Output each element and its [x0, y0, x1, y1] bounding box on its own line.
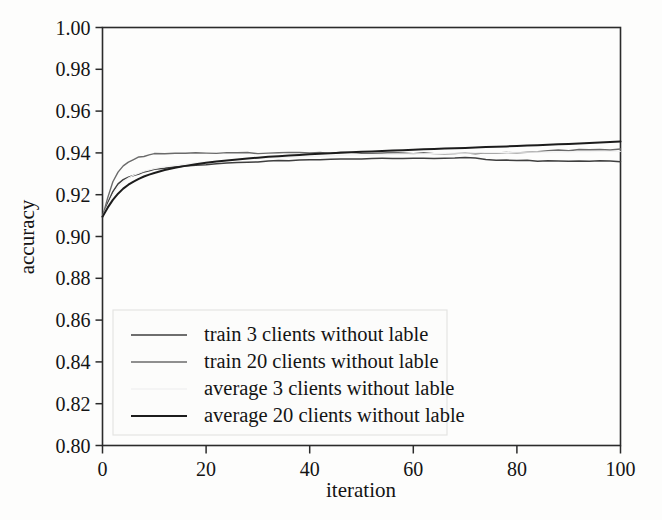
x-tick-label: 40 — [300, 458, 320, 480]
x-tick-label: 0 — [98, 458, 108, 480]
y-tick-label: 0.90 — [56, 226, 91, 248]
chart-figure: 0.800.820.840.860.880.900.920.940.960.98… — [0, 0, 662, 520]
y-tick-label: 0.82 — [56, 393, 91, 415]
x-tick-label: 60 — [403, 458, 423, 480]
y-tick-label: 0.94 — [56, 142, 91, 164]
y-tick-label: 1.00 — [56, 17, 91, 39]
legend-item-label: average 20 clients without lable — [204, 404, 465, 427]
data-series-group — [103, 141, 621, 216]
x-axis-label: iteration — [326, 478, 396, 502]
y-tick-label: 0.92 — [56, 184, 91, 206]
y-tick-label: 0.98 — [56, 58, 91, 80]
accuracy-vs-iteration-chart: 0.800.820.840.860.880.900.920.940.960.98… — [0, 0, 662, 520]
x-tick-label: 80 — [507, 458, 527, 480]
legend-item-label: average 3 clients without lable — [204, 377, 454, 400]
y-tick-label: 0.86 — [56, 309, 91, 331]
x-tick-label: 20 — [196, 458, 216, 480]
x-axis-ticks: 020406080100 — [98, 446, 636, 480]
y-tick-label: 0.80 — [56, 435, 91, 457]
y-tick-label: 0.96 — [56, 100, 91, 122]
legend: train 3 clients without labletrain 20 cl… — [113, 310, 465, 435]
y-axis-label: accuracy — [15, 199, 39, 274]
legend-item-label: train 20 clients without lable — [204, 350, 439, 372]
y-axis-ticks: 0.800.820.840.860.880.900.920.940.960.98… — [56, 17, 103, 457]
y-tick-label: 0.84 — [56, 351, 91, 373]
x-tick-label: 100 — [606, 458, 636, 480]
y-tick-label: 0.88 — [56, 267, 91, 289]
legend-item-label: train 3 clients without lable — [204, 323, 428, 345]
